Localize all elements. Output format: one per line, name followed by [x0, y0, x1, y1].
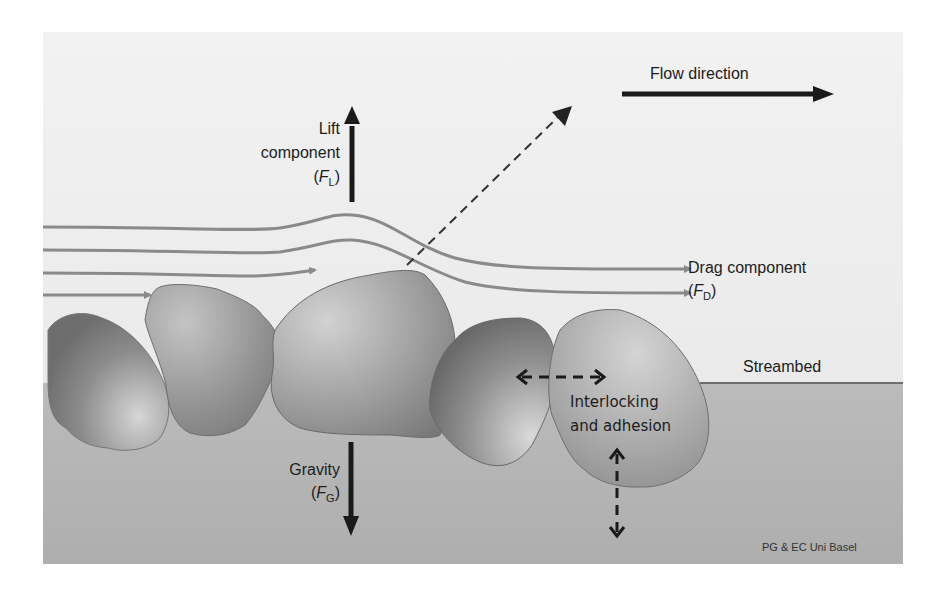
credit-label: PG & EC Uni Basel [762, 541, 857, 553]
interlocking-label-line2: and adhesion [570, 416, 671, 436]
diagram: Flow direction Lift component (FL) Drag … [0, 0, 945, 591]
lift-label-line2: component [210, 143, 340, 163]
drag-label-line1: Drag component [688, 258, 806, 278]
gravity-symbol: (FG) [240, 483, 340, 508]
diagram-canvas [0, 0, 945, 591]
lift-label-line1: Lift [260, 119, 340, 139]
drag-symbol: (FD) [688, 281, 716, 306]
gravity-label-line1: Gravity [240, 460, 340, 480]
lift-symbol: (FL) [260, 167, 340, 192]
streambed-label: Streambed [743, 357, 821, 377]
interlocking-label-line1: Interlocking [570, 392, 659, 412]
flow-direction-label: Flow direction [650, 64, 749, 84]
